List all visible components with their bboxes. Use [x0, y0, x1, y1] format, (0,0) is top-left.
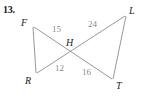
figure-line-art	[0, 0, 144, 100]
segment-LT	[113, 16, 126, 79]
segment-FT	[34, 27, 112, 79]
vertex-label-L: L	[129, 6, 135, 16]
vertex-label-H: H	[66, 38, 73, 48]
measure-label-FH: 15	[52, 25, 61, 34]
segment-LR	[37, 16, 125, 73]
measure-label-HL: 24	[88, 20, 97, 29]
vertex-label-F: F	[21, 18, 27, 28]
geometry-figure: 13. F L H R T 15 24 12 16	[0, 0, 144, 100]
segment-FR	[33, 27, 36, 73]
measure-label-RH: 12	[55, 64, 64, 73]
measure-label-HT: 16	[82, 68, 91, 77]
vertex-label-T: T	[116, 81, 122, 91]
vertex-label-R: R	[25, 76, 31, 86]
